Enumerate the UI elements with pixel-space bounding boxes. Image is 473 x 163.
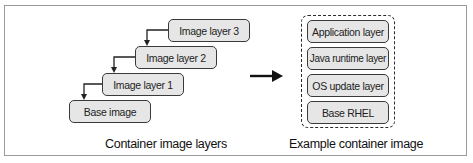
layer-box-image-layer-3: Image layer 3: [168, 19, 250, 42]
layer-box-image-layer-2: Image layer 2: [135, 46, 217, 69]
layer-box-java-runtime: Java runtime layer: [307, 47, 389, 70]
layer-box-application: Application layer: [307, 20, 389, 43]
right-arrow-icon: [250, 70, 283, 82]
connector-layer2-to-layer1: [114, 57, 135, 68]
connector-layer1-to-base: [84, 84, 102, 95]
left-caption: Container image layers: [105, 137, 227, 151]
connector-layer3-to-layer2: [147, 30, 168, 41]
layer-box-base-rhel: Base RHEL: [307, 101, 389, 124]
right-caption: Example container image: [289, 137, 423, 151]
layer-box-os-update: OS update layer: [307, 74, 389, 97]
layer-box-image-layer-1: Image layer 1: [102, 73, 184, 96]
layer-box-base-image: Base image: [69, 100, 151, 123]
